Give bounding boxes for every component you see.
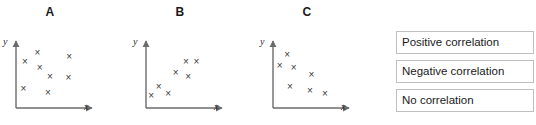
correlation-label-box[interactable]: No correlation bbox=[396, 89, 534, 112]
correlation-label-box[interactable]: Negative correlation bbox=[396, 60, 534, 83]
data-point: × bbox=[19, 84, 28, 93]
plot-title: B bbox=[130, 5, 230, 19]
scatter-plot-a: Ayx×××××××× bbox=[0, 0, 120, 125]
scatter-plot-b: Byx××××××× bbox=[130, 0, 250, 125]
data-point: × bbox=[181, 57, 190, 66]
data-point: × bbox=[154, 82, 163, 91]
data-point-group: ××××××× bbox=[257, 30, 372, 120]
data-point: × bbox=[184, 72, 193, 81]
data-point: × bbox=[64, 73, 73, 82]
data-point: × bbox=[192, 57, 201, 66]
plot-axes: yx××××××× bbox=[130, 30, 245, 120]
data-point: × bbox=[289, 63, 298, 72]
data-point: × bbox=[286, 82, 295, 91]
data-point: × bbox=[33, 48, 42, 57]
data-point: × bbox=[46, 72, 55, 81]
scatter-plot-c: Cyx××××××× bbox=[257, 0, 377, 125]
data-point: × bbox=[275, 61, 284, 70]
data-point: × bbox=[35, 63, 44, 72]
data-point: × bbox=[164, 89, 173, 98]
plot-title: A bbox=[0, 5, 100, 19]
plot-title: C bbox=[257, 5, 357, 19]
data-point: × bbox=[65, 52, 74, 61]
plot-axes: yx××××××× bbox=[257, 30, 372, 120]
data-point: × bbox=[283, 50, 292, 59]
plot-axes: yx×××××××× bbox=[0, 30, 115, 120]
data-point: × bbox=[20, 57, 29, 66]
correlation-label-list: Positive correlationNegative correlation… bbox=[396, 31, 536, 118]
data-point: × bbox=[307, 70, 316, 79]
data-point: × bbox=[171, 68, 180, 77]
data-point: × bbox=[306, 86, 315, 95]
data-point-group: ××××××× bbox=[130, 30, 245, 120]
data-point-group: ×××××××× bbox=[0, 30, 115, 120]
data-point: × bbox=[43, 88, 52, 97]
data-point: × bbox=[320, 89, 329, 98]
correlation-label-box[interactable]: Positive correlation bbox=[396, 31, 534, 54]
data-point: × bbox=[147, 91, 156, 100]
